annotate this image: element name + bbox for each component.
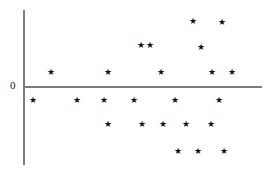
- data-point-star: ★: [29, 96, 38, 105]
- data-point-star: ★: [189, 17, 198, 26]
- data-point-star: ★: [171, 96, 180, 105]
- horizontal-axis-zero-line: [23, 86, 262, 88]
- data-point-star: ★: [73, 96, 82, 105]
- data-point-star: ★: [218, 18, 227, 27]
- scatter-plot-figure: 0 ★★★★★★★★★★★★★★★★★★★★★★★★: [0, 0, 268, 171]
- data-point-star: ★: [182, 120, 191, 129]
- data-point-star: ★: [208, 68, 217, 77]
- data-point-star: ★: [159, 120, 168, 129]
- y-axis-zero-tick-label: 0: [10, 80, 16, 91]
- data-point-star: ★: [220, 147, 229, 156]
- data-point-star: ★: [228, 68, 237, 77]
- data-point-star: ★: [104, 68, 113, 77]
- data-point-star: ★: [47, 68, 56, 77]
- data-point-star: ★: [207, 120, 216, 129]
- data-point-star: ★: [138, 120, 147, 129]
- data-point-star: ★: [215, 96, 224, 105]
- data-point-star: ★: [157, 68, 166, 77]
- data-point-star: ★: [197, 43, 206, 52]
- data-point-star: ★: [100, 96, 109, 105]
- data-point-star: ★: [174, 147, 183, 156]
- data-point-star: ★: [104, 120, 113, 129]
- data-point-star: ★: [146, 41, 155, 50]
- data-point-star: ★: [130, 96, 139, 105]
- data-point-star: ★: [194, 147, 203, 156]
- data-point-star: ★: [137, 41, 146, 50]
